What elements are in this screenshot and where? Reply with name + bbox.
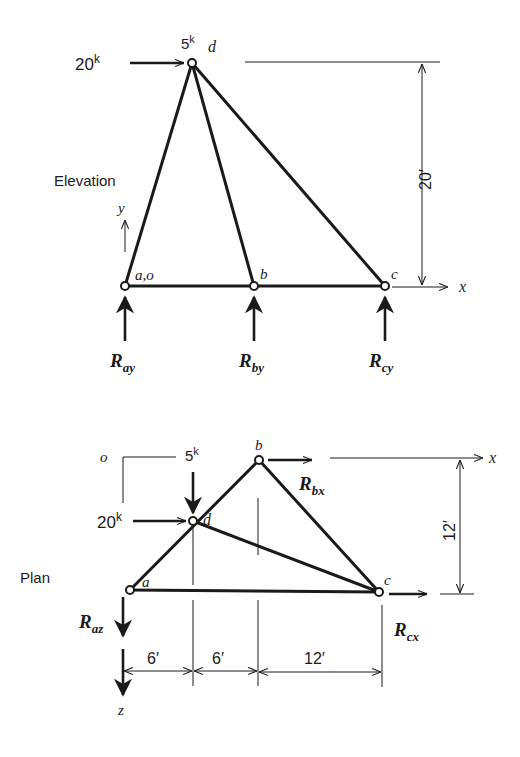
plan-joint-b bbox=[255, 456, 263, 464]
plan-joint-a bbox=[126, 586, 134, 594]
span-label-3: 12′ bbox=[304, 650, 325, 667]
origin-reference-line bbox=[123, 457, 176, 503]
member-b-c bbox=[259, 460, 379, 592]
plan-label: Plan bbox=[20, 569, 50, 586]
load-20k-label: 20k bbox=[75, 52, 101, 74]
span-label-2: 6′ bbox=[212, 650, 224, 667]
z-axis-label: z bbox=[117, 702, 124, 718]
depth-dimension-label: 12′ bbox=[441, 520, 458, 541]
y-axis-label: y bbox=[116, 200, 125, 216]
reaction-cy-label: Rcy bbox=[368, 350, 393, 375]
reaction-az-label: Raz bbox=[78, 611, 104, 636]
plan-x-axis-label: x bbox=[488, 449, 496, 466]
plan-load-20k-label: 20k bbox=[97, 510, 123, 532]
plan-joint-label-d: d bbox=[203, 511, 212, 528]
elevation-members bbox=[125, 63, 385, 286]
x-axis-label: x bbox=[458, 278, 466, 295]
span-label-1: 6′ bbox=[147, 650, 159, 667]
plan-load-5k-label: 5k bbox=[185, 445, 199, 464]
joint-label-a: a,o bbox=[135, 267, 154, 283]
joint-b bbox=[250, 282, 258, 290]
member-d-c bbox=[192, 63, 385, 286]
reaction-bx-label: Rbx bbox=[298, 473, 325, 498]
elevation-view: Elevation 20k 5k d a,o b c y x 20′ bbox=[54, 33, 466, 375]
joint-label-b: b bbox=[260, 266, 268, 282]
joint-c bbox=[381, 282, 389, 290]
plan-joint-label-a: a bbox=[142, 574, 150, 590]
plan-view: Plan o 5k 20k b d a c Rbx x bbox=[20, 437, 496, 718]
plan-members bbox=[130, 460, 379, 592]
joint-label-c: c bbox=[391, 266, 398, 282]
joint-a bbox=[121, 282, 129, 290]
height-dimension-label: 20′ bbox=[417, 169, 434, 190]
member-a-d bbox=[125, 63, 192, 286]
elevation-label: Elevation bbox=[54, 172, 116, 189]
member-d-c bbox=[193, 521, 379, 592]
plan-joint-c bbox=[375, 588, 383, 596]
load-5k-label: 5k bbox=[181, 33, 195, 52]
reaction-by-label: Rby bbox=[238, 350, 264, 375]
joint-d bbox=[188, 59, 196, 67]
truss-diagram: Elevation 20k 5k d a,o b c y x 20′ bbox=[0, 0, 520, 757]
member-a-c bbox=[130, 590, 379, 592]
reaction-ay-label: Ray bbox=[109, 350, 135, 375]
plan-joint-label-c: c bbox=[384, 572, 391, 588]
member-d-b bbox=[192, 63, 254, 286]
plan-joint-d bbox=[189, 517, 197, 525]
origin-label: o bbox=[100, 449, 108, 465]
reaction-cx-label: Rcx bbox=[393, 619, 419, 644]
joint-label-d: d bbox=[208, 38, 217, 55]
plan-joint-label-b: b bbox=[255, 437, 263, 453]
